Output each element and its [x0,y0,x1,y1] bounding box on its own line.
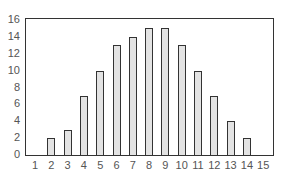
bar [113,45,121,155]
bar [129,37,137,155]
y-tick-label: 4 [0,115,20,126]
x-tick-label: 13 [223,160,239,171]
y-tick-label: 6 [0,98,20,109]
y-tick-label: 16 [0,14,20,25]
bar [80,96,88,155]
y-tick-label: 10 [0,65,20,76]
bar [178,45,186,155]
x-tick-label: 14 [239,160,255,171]
x-tick-label: 11 [190,160,206,171]
bar [227,121,235,155]
x-tick-label: 1 [27,160,43,171]
y-tick-label: 0 [0,149,20,160]
bar [210,96,218,155]
x-tick-label: 5 [92,160,108,171]
x-tick-label: 15 [255,160,271,171]
x-tick-label: 7 [125,160,141,171]
bar [243,138,251,155]
x-tick-label: 3 [60,160,76,171]
bar [64,130,72,155]
bar [194,71,202,155]
bar [96,71,104,155]
bar [161,28,169,155]
y-tick-label: 2 [0,132,20,143]
bar [47,138,55,155]
y-tick-label: 8 [0,82,20,93]
bar [145,28,153,155]
x-tick-label: 10 [174,160,190,171]
x-tick-label: 8 [141,160,157,171]
y-tick-label: 12 [0,48,20,59]
x-tick-label: 9 [157,160,173,171]
bar-chart: 0246810121416 123456789101112131415 [0,0,284,180]
x-tick-label: 12 [206,160,222,171]
x-tick-label: 2 [43,160,59,171]
x-tick-label: 4 [76,160,92,171]
y-tick-label: 14 [0,31,20,42]
x-tick-label: 6 [109,160,125,171]
